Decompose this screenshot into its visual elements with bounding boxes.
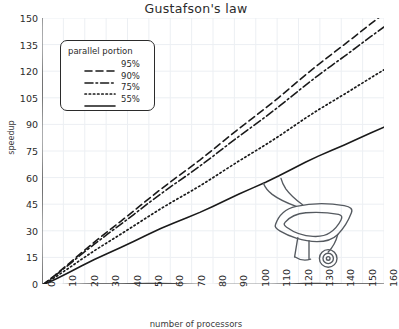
legend-label: 55% xyxy=(121,94,147,104)
legend-item-90pct[interactable]: 90% xyxy=(68,71,147,81)
x-tick-label: 50 xyxy=(153,275,164,287)
x-tick-label: 30 xyxy=(110,275,121,287)
chart-title: Gustafson's law xyxy=(0,1,392,16)
x-tick-label: 140 xyxy=(345,269,356,287)
x-tick-label: 20 xyxy=(89,275,100,287)
y-tick-label: 135 xyxy=(8,39,38,50)
x-tick-label: 120 xyxy=(303,269,314,287)
x-tick-label: 60 xyxy=(174,275,185,287)
legend-item-75pct[interactable]: 75% xyxy=(68,82,147,92)
y-tick-label: 120 xyxy=(8,66,38,77)
x-axis-label: number of processors xyxy=(0,319,392,329)
y-tick-label: 0 xyxy=(8,279,38,290)
x-tick-label: 10 xyxy=(67,275,78,287)
x-tick-label: 70 xyxy=(196,275,207,287)
legend-swatch-solid xyxy=(84,95,116,103)
legend-item-95pct[interactable]: 95% xyxy=(68,59,147,69)
legend-label: 90% xyxy=(121,71,147,81)
legend-swatch-dashed xyxy=(84,60,116,68)
y-tick-label: 105 xyxy=(8,92,38,103)
x-tick-label: 100 xyxy=(260,269,271,287)
legend-swatch-dashdot xyxy=(84,72,116,80)
x-tick-label: 80 xyxy=(217,275,228,287)
y-tick-label: 15 xyxy=(8,252,38,263)
legend-rows: 95%90%75%55% xyxy=(68,59,147,104)
legend: parallel portion 95%90%75%55% xyxy=(60,40,155,111)
y-tick-label: 90 xyxy=(8,119,38,130)
legend-label: 95% xyxy=(121,59,147,69)
y-tick-label: 75 xyxy=(8,146,38,157)
x-tick-label: 150 xyxy=(367,269,378,287)
x-tick-label: 130 xyxy=(324,269,335,287)
legend-swatch-dotted xyxy=(84,83,116,91)
legend-label: 75% xyxy=(121,82,147,92)
x-tick-label: 40 xyxy=(132,275,143,287)
y-tick-label: 30 xyxy=(8,225,38,236)
y-tick-label: 150 xyxy=(8,13,38,24)
x-tick-label: 0 xyxy=(46,281,57,287)
y-tick-label: 60 xyxy=(8,172,38,183)
x-tick-label: 90 xyxy=(238,275,249,287)
y-tick-label: 45 xyxy=(8,199,38,210)
legend-item-55pct[interactable]: 55% xyxy=(68,94,147,104)
x-tick-label: 110 xyxy=(281,269,292,287)
legend-title: parallel portion xyxy=(68,46,147,56)
y-axis-tick-labels: 0153045607590105120135150 xyxy=(4,18,38,284)
x-tick-label: 160 xyxy=(388,269,399,287)
